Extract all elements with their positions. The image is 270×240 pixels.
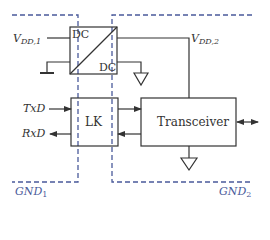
- ground-icon-transceiver: [181, 146, 197, 170]
- gnd2-label-main: GND: [219, 185, 246, 198]
- vdd1-label: VDD,1: [13, 33, 41, 46]
- converter-input-label: DC: [72, 29, 89, 40]
- isolator-label: LK: [85, 116, 102, 128]
- gnd1-label-main: GND: [15, 185, 42, 198]
- gnd2-label-sub: 2: [246, 190, 251, 199]
- rxd-label: RxD: [22, 128, 45, 139]
- transceiver-label: Transceiver: [157, 116, 229, 128]
- converter-output-label: DC: [99, 62, 116, 73]
- gnd2-label: GND2: [219, 186, 251, 199]
- vdd1-label-sub: DD,1: [21, 37, 41, 46]
- vdd1-label-main: V: [13, 32, 21, 45]
- gnd1-label: GND1: [15, 186, 47, 199]
- vdd2-label: VDD,2: [191, 33, 219, 46]
- gnd1-label-sub: 1: [42, 190, 47, 199]
- vdd2-wire: [117, 38, 189, 98]
- txd-label: TxD: [23, 103, 45, 114]
- ground-icon-left: [40, 62, 70, 73]
- vdd2-label-main: V: [191, 32, 199, 45]
- ground-icon-converter-output: [117, 62, 148, 85]
- vdd2-label-sub: DD,2: [199, 37, 219, 46]
